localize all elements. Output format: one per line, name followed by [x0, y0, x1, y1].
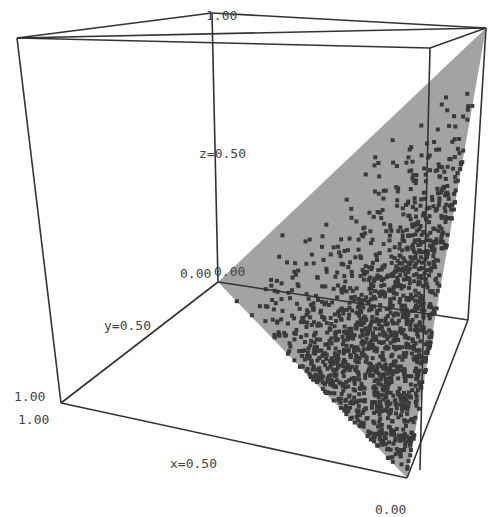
x-max-label: 1.00: [18, 412, 49, 427]
origin-label-b: 0.00: [214, 264, 245, 279]
y-max-label: 1.00: [14, 389, 45, 404]
x-min-label: 0.00: [375, 502, 406, 517]
origin-label-a: 0.00: [180, 266, 211, 281]
3d-scatter-plot[interactable]: 1.00 z=0.50 0.00 0.00 y=0.50 1.00 1.00 x…: [0, 0, 490, 517]
x-mid-label: x=0.50: [170, 456, 217, 471]
z-mid-label: z=0.50: [199, 146, 246, 161]
y-mid-label: y=0.50: [104, 318, 151, 333]
z-max-label: 1.00: [206, 8, 237, 23]
